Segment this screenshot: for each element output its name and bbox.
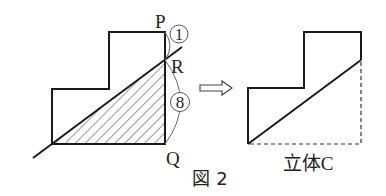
hollow-right-arrow-icon — [200, 81, 232, 95]
left-step-solid — [33, 32, 182, 158]
ratio-label-bottom: 8 — [171, 93, 190, 113]
ratio-bottom-text: 8 — [176, 93, 185, 112]
point-label-P: P — [155, 11, 166, 32]
figure-caption: 図 2 — [192, 168, 227, 189]
ratio-label-top: 1 — [170, 25, 188, 43]
figure-2-diagram: 1 8 P R Q 立体C 図 2 — [0, 0, 386, 196]
ratio-top-text: 1 — [175, 26, 183, 43]
solid-C — [248, 32, 361, 144]
point-label-Q: Q — [166, 148, 180, 169]
solid-C-label: 立体C — [283, 153, 334, 174]
point-label-R: R — [171, 56, 184, 77]
solid-C-outline — [248, 32, 361, 144]
